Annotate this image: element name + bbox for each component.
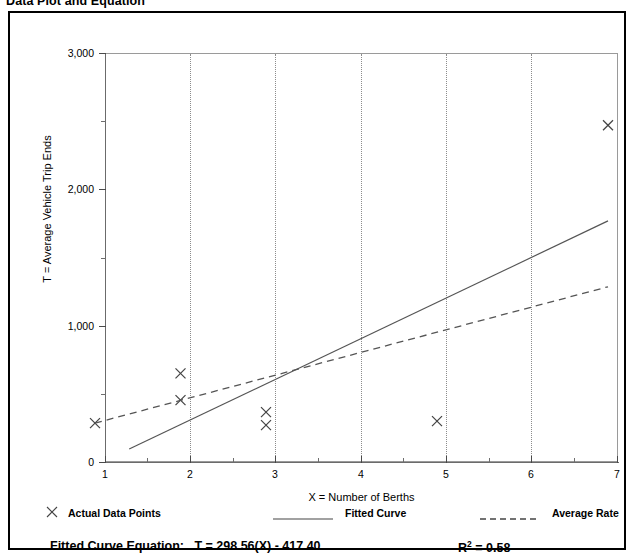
y-tick-label-1000: 1,000	[34, 320, 94, 332]
x-tick-2	[190, 456, 191, 463]
x-tick-label-7: 7	[602, 468, 632, 480]
y-tick-label-0: 0	[34, 456, 94, 468]
y-tick-1500	[101, 258, 106, 259]
legend-label-average-rate: Average Rate	[552, 507, 619, 519]
x-tick-1	[105, 456, 106, 463]
x-axis-line	[105, 462, 619, 463]
legend-label-fitted-curve: Fitted Curve	[345, 507, 406, 519]
equation-value: T = 298.56(X) - 417.40	[194, 539, 320, 553]
solid-line-icon	[273, 511, 333, 523]
r2-label: R	[458, 541, 467, 555]
r-squared-value: R2 = 0.58	[458, 539, 510, 555]
x-tick-7	[617, 456, 618, 463]
y-tick-2000	[99, 189, 106, 190]
x-marker-icon	[46, 506, 58, 520]
gridline-x-2	[190, 54, 191, 462]
equation-row: Fitted Curve Equation: T = 298.56(X) - 4…	[18, 539, 634, 558]
y-tick-500	[101, 394, 106, 395]
x-tick-label-4: 4	[346, 468, 376, 480]
x-tick-label-3: 3	[260, 468, 290, 480]
x-tick-label-2: 2	[175, 468, 205, 480]
r2-number: = 0.58	[475, 541, 510, 555]
x-tick-6-5	[574, 458, 575, 463]
gridline-x-5	[446, 54, 447, 462]
gridline-x-3	[275, 54, 276, 462]
y-tick-1000	[99, 326, 106, 327]
y-tick-label-3000: 3,000	[34, 47, 94, 59]
page-title: Data Plot and Equation	[6, 0, 145, 8]
x-tick-1-5	[147, 458, 148, 463]
y-axis-title: T = Average Vehicle Trip Ends	[41, 109, 53, 309]
gridline-x-4	[361, 54, 362, 462]
legend-label-actual-data-points: Actual Data Points	[68, 507, 161, 519]
x-tick-2-5	[233, 458, 234, 463]
chart-page: Data Plot and Equation 3,000 2,000 1,000	[0, 0, 634, 558]
x-tick-4	[361, 456, 362, 463]
x-tick-5	[446, 456, 447, 463]
x-tick-6	[531, 456, 532, 463]
dashed-line-icon	[480, 511, 540, 523]
chart-panel: 3,000 2,000 1,000 0 1 2 3 4 5 6 7	[8, 11, 626, 550]
r2-superscript: 2	[467, 539, 472, 549]
y-tick-2500	[101, 121, 106, 122]
x-axis-title: X = Number of Berths	[105, 491, 618, 503]
y-tick-3000	[99, 53, 106, 54]
x-tick-5-5	[489, 458, 490, 463]
x-tick-label-5: 5	[431, 468, 461, 480]
x-tick-3-5	[318, 458, 319, 463]
equation-label: Fitted Curve Equation:	[50, 539, 184, 553]
x-tick-4-5	[403, 458, 404, 463]
x-tick-label-6: 6	[516, 468, 546, 480]
fitted-curve-equation: Fitted Curve Equation: T = 298.56(X) - 4…	[50, 539, 321, 553]
x-tick-label-1: 1	[90, 468, 120, 480]
x-tick-3	[275, 456, 276, 463]
chart-legend: Actual Data Points Fitted Curve Average …	[18, 507, 634, 533]
gridline-x-6	[531, 54, 532, 462]
